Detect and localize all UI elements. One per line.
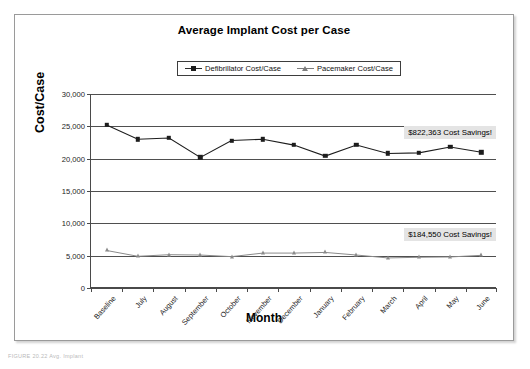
y-axis-title: Cost/Case [33, 72, 47, 133]
x-tick-mark [247, 288, 248, 292]
data-point-marker [261, 137, 265, 141]
x-tick-mark [496, 288, 497, 292]
chart-title: Average Implant Cost per Case [15, 24, 513, 36]
y-tick-label: 5,000 [66, 251, 85, 260]
data-point-marker [229, 138, 233, 142]
x-tick-mark [153, 288, 154, 292]
data-point-marker [479, 150, 483, 154]
x-tick-mark [310, 288, 311, 292]
data-point-marker [354, 253, 358, 257]
x-tick-mark [91, 288, 92, 292]
data-point-marker [323, 154, 327, 158]
data-point-marker [386, 256, 390, 260]
data-point-marker [292, 251, 296, 255]
legend-item-pacemaker[interactable]: Pacemaker Cost/Case [297, 64, 393, 73]
x-tick-mark [278, 288, 279, 292]
data-point-marker [323, 250, 327, 254]
y-tick-label: 30,000 [62, 90, 85, 99]
data-point-marker [136, 254, 140, 258]
data-point-marker [448, 255, 452, 259]
chart-annotation: $184,550 Cost Savings! [404, 228, 496, 241]
legend-label-defibrillator: Defibrillator Cost/Case [205, 64, 281, 73]
data-point-marker [292, 143, 296, 147]
data-point-marker [417, 151, 421, 155]
x-tick-mark [122, 288, 123, 292]
figure-caption: FIGURE 20.22 Avg. Implant [8, 353, 83, 359]
data-point-marker [354, 143, 358, 147]
legend-marker-square-icon [185, 65, 202, 72]
legend-label-pacemaker: Pacemaker Cost/Case [317, 64, 393, 73]
x-tick-label: April [413, 294, 430, 311]
x-tick-mark [185, 288, 186, 292]
y-tick-label: 10,000 [62, 219, 85, 228]
legend-item-defibrillator[interactable]: Defibrillator Cost/Case [185, 64, 281, 73]
x-tick-mark [341, 288, 342, 292]
y-tick-label: 0 [81, 284, 85, 293]
x-tick-label: July [133, 294, 148, 310]
x-tick-label: June [475, 294, 492, 312]
data-point-marker [385, 151, 389, 155]
data-point-marker [479, 253, 483, 257]
data-point-marker [417, 255, 421, 259]
data-point-marker [167, 252, 171, 256]
x-tick-mark [435, 288, 436, 292]
legend-marker-triangle-icon [297, 65, 314, 72]
chart-annotation: $822,363 Cost Savings! [404, 126, 496, 139]
series-lines [91, 94, 497, 288]
chart-legend: Defibrillator Cost/Case Pacemaker Cost/C… [177, 61, 401, 76]
x-tick-mark [403, 288, 404, 292]
chart-frame: Average Implant Cost per Case Defibrilla… [14, 14, 514, 341]
data-point-marker [167, 136, 171, 140]
plot-area: 05,00010,00015,00020,00025,00030,000 Bas… [90, 94, 496, 288]
data-point-marker [448, 145, 452, 149]
data-point-marker [104, 123, 108, 127]
y-tick-label: 20,000 [62, 154, 85, 163]
data-point-marker [198, 253, 202, 257]
data-point-marker [261, 251, 265, 255]
y-tick-label: 25,000 [62, 122, 85, 131]
x-tick-mark [216, 288, 217, 292]
y-tick-label: 15,000 [62, 187, 85, 196]
data-point-marker [136, 137, 140, 141]
x-tick-label: May [445, 294, 461, 310]
data-point-marker [230, 254, 234, 258]
x-tick-mark [372, 288, 373, 292]
x-axis-title: Month [15, 311, 513, 325]
data-point-marker [198, 155, 202, 159]
data-point-marker [105, 248, 109, 252]
x-tick-mark [466, 288, 467, 292]
figure-root: Average Implant Cost per Case Defibrilla… [0, 0, 530, 369]
